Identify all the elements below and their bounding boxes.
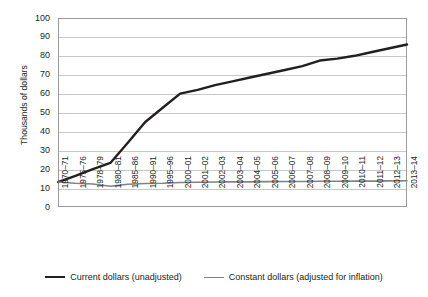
y-tick-label: 30	[24, 146, 50, 155]
x-tick-label: 2001–02	[201, 156, 209, 212]
y-tick-label: 40	[24, 127, 50, 136]
y-tick-label: 100	[24, 14, 50, 23]
y-tick-label: 60	[24, 89, 50, 98]
legend-swatch-line	[45, 276, 65, 278]
x-tick-label: 2007–08	[306, 156, 314, 212]
y-tick-label: 20	[24, 165, 50, 174]
legend-item: Current dollars (unadjusted)	[45, 272, 182, 282]
legend-label: Constant dollars (adjusted for inflation…	[229, 272, 383, 282]
x-tick-label: 2004–05	[253, 156, 261, 212]
x-tick-label: 2008–09	[323, 156, 331, 212]
legend-item: Constant dollars (adjusted for inflation…	[204, 272, 383, 282]
x-tick-label: 1970–71	[61, 156, 69, 212]
x-tick-label: 1975–76	[79, 156, 87, 212]
y-tick-label: 0	[24, 203, 50, 212]
y-tick-label: 80	[24, 51, 50, 60]
x-tick-label: 2006–07	[288, 156, 296, 212]
x-tick-label: 1995–96	[166, 156, 174, 212]
y-tick-label: 90	[24, 32, 50, 41]
legend-swatch-line	[204, 277, 224, 278]
x-tick-label: 2009–10	[341, 156, 349, 212]
x-tick-label: 1980–81	[114, 156, 122, 212]
x-tick-label: 2011–12	[376, 156, 384, 212]
x-tick-label: 2000–01	[184, 156, 192, 212]
x-tick-label: 2003–04	[236, 156, 244, 212]
x-tick-label: 1990–91	[149, 156, 157, 212]
y-tick-label: 10	[24, 184, 50, 193]
y-tick-label: 70	[24, 70, 50, 79]
x-tick-label: 2002–03	[218, 156, 226, 212]
x-tick-label: 1978–79	[96, 156, 104, 212]
series-line	[58, 181, 407, 186]
chart-figure: Thousands of dollars 0102030405060708090…	[0, 0, 428, 297]
x-tick-label: 2005–06	[271, 156, 279, 212]
x-tick-label: 1985–86	[131, 156, 139, 212]
x-tick-label: 2012–13	[393, 156, 401, 212]
x-tick-label: 2013–14	[410, 156, 418, 212]
legend-label: Current dollars (unadjusted)	[70, 272, 182, 282]
y-tick-label: 50	[24, 108, 50, 117]
chart-legend: Current dollars (unadjusted)Constant dol…	[0, 272, 428, 282]
x-tick-label: 2010–11	[358, 156, 366, 212]
series-layer	[58, 18, 407, 207]
series-line	[58, 44, 407, 182]
